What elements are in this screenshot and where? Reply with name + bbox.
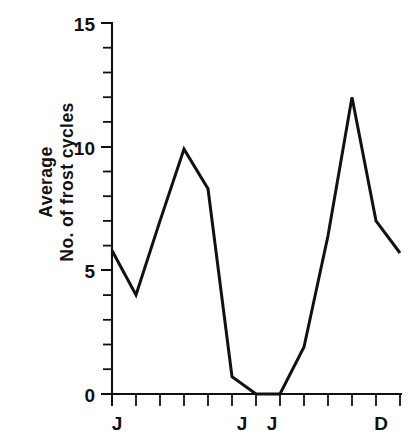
y-axis-major-ticks	[101, 23, 112, 394]
y-tick-label-5: 5	[84, 261, 95, 282]
x-tick-label-june: J	[237, 413, 248, 434]
y-tick-label-10: 10	[74, 138, 95, 159]
x-tick-label-january: J	[112, 413, 123, 434]
x-tick-label-july: J	[267, 413, 278, 434]
x-tick-label-december: D	[374, 413, 388, 434]
frost-cycles-line-chart: Average No. of frost cycles	[0, 0, 412, 445]
y-tick-label-0: 0	[84, 385, 95, 406]
y-tick-label-15: 15	[74, 14, 96, 35]
y-axis-minor-ticks	[103, 48, 112, 370]
x-axis-ticks	[112, 394, 400, 406]
chart-canvas: 15 10 5 0 J J J D	[0, 0, 412, 445]
frost-cycles-series-line	[112, 97, 400, 394]
